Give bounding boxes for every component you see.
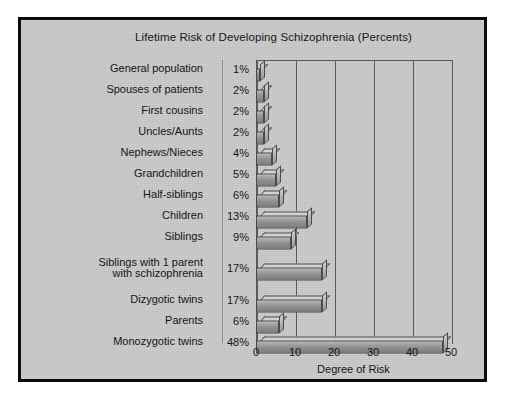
bar-front-face <box>256 299 322 312</box>
category-label: Uncles/Aunts <box>31 121 203 142</box>
value-label: 2% <box>207 79 249 100</box>
bar <box>256 264 322 277</box>
bar-row <box>256 123 486 144</box>
bar-front-face <box>256 131 264 144</box>
bar-row <box>256 81 486 102</box>
bar-side-face <box>264 81 269 102</box>
value-label: 5% <box>207 163 249 184</box>
bar-row <box>256 60 486 81</box>
category-axis-labels: General populationSpouses of patientsFir… <box>31 58 203 352</box>
value-label: 6% <box>207 184 249 205</box>
bar-front-face <box>256 268 322 281</box>
category-label: Dizygotic twins <box>31 289 203 310</box>
value-label: 6% <box>207 310 249 331</box>
bar-side-face <box>291 228 296 249</box>
bar <box>256 148 272 161</box>
bar-front-face <box>256 236 291 249</box>
bar <box>256 64 260 77</box>
x-tick-label: 50 <box>445 346 457 358</box>
bar-front-face <box>256 152 272 165</box>
label-divider <box>222 60 223 343</box>
bar-side-face <box>279 186 284 207</box>
bar <box>256 211 307 224</box>
category-label: General population <box>31 58 203 79</box>
bar-front-face <box>256 320 279 333</box>
bar-side-face <box>279 312 284 333</box>
value-label: 4% <box>207 142 249 163</box>
category-label: Monozygotic twins <box>31 331 203 352</box>
bar-side-face <box>322 291 327 312</box>
bar <box>256 190 279 203</box>
category-label: Parents <box>31 310 203 331</box>
bar-row <box>256 312 486 333</box>
category-label: Children <box>31 205 203 226</box>
chart-title: Lifetime Risk of Developing Schizophreni… <box>21 31 484 43</box>
bar <box>256 295 322 308</box>
bar-row <box>256 102 486 123</box>
x-tick-label: 30 <box>367 346 379 358</box>
bar <box>256 85 264 98</box>
bar-front-face <box>256 89 264 102</box>
bar-side-face <box>322 259 327 280</box>
bar-row <box>256 228 486 249</box>
bar-side-face <box>276 165 281 186</box>
bar-row <box>256 249 486 291</box>
x-axis-ticks: 01020304050 <box>256 346 451 360</box>
category-label: Grandchildren <box>31 163 203 184</box>
x-tick-label: 20 <box>328 346 340 358</box>
x-tick-label: 0 <box>253 346 259 358</box>
bar-front-face <box>256 194 279 207</box>
value-label: 2% <box>207 121 249 142</box>
bar <box>256 106 264 119</box>
bar <box>256 232 291 245</box>
value-label: 9% <box>207 226 249 247</box>
value-label: 13% <box>207 205 249 226</box>
category-label: First cousins <box>31 100 203 121</box>
bar-side-face <box>260 60 265 81</box>
value-label: 1% <box>207 58 249 79</box>
x-axis-label: Degree of Risk <box>256 363 451 375</box>
value-labels-column: 1%2%2%2%4%5%6%13%9%17%17%6%48% <box>207 58 249 352</box>
bar-front-face <box>256 110 264 123</box>
category-label: Nephews/Nieces <box>31 142 203 163</box>
bar-front-face <box>256 215 307 228</box>
bar-row <box>256 165 486 186</box>
bar-row <box>256 144 486 165</box>
bar <box>256 127 264 140</box>
bar <box>256 169 276 182</box>
value-label: 48% <box>207 331 249 352</box>
x-tick-label: 40 <box>406 346 418 358</box>
bar-front-face <box>256 173 276 186</box>
bar-side-face <box>264 123 269 144</box>
value-label: 2% <box>207 100 249 121</box>
x-tick-label: 10 <box>289 346 301 358</box>
bar-series <box>256 60 486 343</box>
bar-row <box>256 186 486 207</box>
bar-row <box>256 291 486 312</box>
value-label: 17% <box>207 247 249 289</box>
chart-figure: Lifetime Risk of Developing Schizophreni… <box>18 17 487 382</box>
category-label: Siblings <box>31 226 203 247</box>
bar-side-face <box>307 207 312 228</box>
value-label: 17% <box>207 289 249 310</box>
category-label: Spouses of patients <box>31 79 203 100</box>
bar-side-face <box>264 102 269 123</box>
category-label: Half-siblings <box>31 184 203 205</box>
bar <box>256 316 279 329</box>
bar-row <box>256 207 486 228</box>
bar-side-face <box>272 144 277 165</box>
category-label: Siblings with 1 parent with schizophreni… <box>31 247 203 289</box>
